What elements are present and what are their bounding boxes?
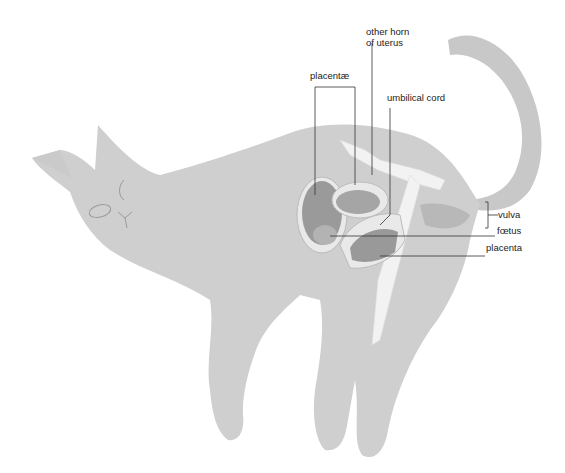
label-placentae: placentæ: [310, 70, 349, 81]
label-foetus: fœtus: [497, 225, 521, 236]
label-other-horn-of-uterus: other horn of uterus: [366, 26, 409, 48]
pregnant-cat-anatomy-diagram: other horn of uterus placentæ umbilical …: [0, 0, 565, 473]
label-umbilical-cord: umbilical cord: [387, 92, 445, 103]
label-vulva: vulva: [498, 209, 520, 220]
label-placenta: placenta: [486, 242, 522, 253]
